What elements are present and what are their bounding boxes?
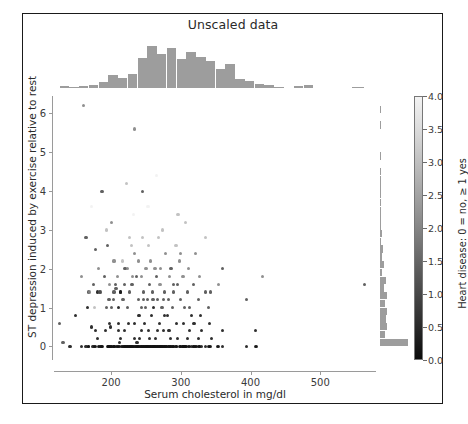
histogram-bar-x — [196, 57, 205, 88]
scatter-point — [162, 329, 165, 332]
histogram-bar-x — [235, 79, 244, 88]
scatter-point — [112, 259, 115, 262]
scatter-point — [176, 213, 179, 216]
scatter-point — [110, 221, 113, 224]
scatter-point — [154, 337, 157, 340]
scatter-point — [254, 329, 257, 332]
scatter-point — [171, 306, 174, 309]
scatter-point — [135, 341, 138, 344]
scatter-point — [208, 322, 211, 325]
scatter-point — [147, 329, 150, 332]
x-tick-label: 200 — [102, 377, 121, 388]
colorbar-tick-mark — [423, 360, 427, 361]
y-tick-mark — [49, 113, 53, 114]
y-tick-label: 0 — [36, 341, 46, 352]
histogram-bar-x — [245, 81, 254, 88]
scatter-point — [188, 329, 191, 332]
scatter-point — [207, 306, 210, 309]
histogram-bar-y — [380, 207, 381, 214]
scatter-point — [363, 283, 366, 286]
scatter-point — [200, 345, 203, 348]
scatter-point — [217, 345, 220, 348]
scatter-point — [148, 337, 151, 340]
scatter-point — [221, 329, 224, 332]
y-tick-mark — [49, 191, 53, 192]
histogram-bar-y — [380, 300, 385, 307]
colorbar-tick-label: 0.0 — [428, 355, 443, 366]
scatter-point — [140, 329, 143, 332]
scatter-point — [84, 236, 87, 239]
scatter-point — [140, 275, 143, 278]
scatter-point — [141, 236, 144, 239]
scatter-point — [147, 244, 150, 247]
colorbar-tick-label: 3.0 — [428, 157, 443, 168]
scatter-point — [146, 298, 149, 301]
scatter-point — [74, 314, 77, 317]
scatter-point — [108, 283, 111, 286]
scatter-axes — [54, 96, 376, 360]
histogram-bar-y — [380, 222, 381, 229]
scatter-point — [204, 290, 207, 293]
scatter-point — [164, 252, 167, 255]
histogram-bar-y — [380, 230, 382, 237]
scatter-point — [86, 306, 89, 309]
scatter-point — [137, 314, 140, 317]
scatter-point — [192, 322, 195, 325]
scatter-point — [158, 283, 161, 286]
histogram-bar-y — [380, 183, 381, 190]
scatter-point — [174, 244, 177, 247]
histogram-bar-y — [380, 245, 383, 252]
histogram-bar-y — [380, 214, 381, 221]
scatter-point — [183, 306, 186, 309]
x-tick-label: 500 — [311, 377, 330, 388]
scatter-point — [109, 325, 112, 328]
histogram-bar-x — [216, 69, 225, 88]
scatter-point — [221, 267, 224, 270]
y-tick-mark — [49, 346, 53, 347]
y-tick-mark — [49, 230, 53, 231]
scatter-point — [94, 329, 97, 332]
scatter-point — [105, 228, 108, 231]
x-tick-label: 300 — [171, 377, 190, 388]
scatter-point — [194, 252, 197, 255]
scatter-point — [100, 345, 103, 348]
scatter-point — [187, 267, 190, 270]
scatter-point — [121, 259, 124, 262]
scatter-point — [166, 314, 169, 317]
chart-title: Unscaled data — [0, 17, 466, 32]
histogram-bar-x — [118, 78, 127, 88]
marginal-histogram-y — [380, 96, 410, 360]
scatter-point — [197, 298, 200, 301]
scatter-point — [135, 275, 138, 278]
scatter-point — [117, 322, 120, 325]
histogram-bar-y — [380, 339, 408, 346]
scatter-point — [118, 341, 121, 344]
scatter-point — [204, 236, 207, 239]
scatter-point — [186, 337, 189, 340]
scatter-point — [123, 283, 126, 286]
scatter-point — [142, 290, 145, 293]
x-tick-mark — [320, 371, 321, 375]
scatter-point — [90, 205, 93, 208]
scatter-point — [80, 275, 83, 278]
scatter-point — [128, 290, 131, 293]
scatter-point — [146, 205, 149, 208]
scatter-point — [99, 290, 102, 293]
scatter-point — [167, 298, 170, 301]
colorbar-tick-label: 0.5 — [428, 322, 443, 333]
scatter-point — [87, 345, 90, 348]
colorbar-tick-label: 2.0 — [428, 223, 443, 234]
colorbar-tick-mark — [423, 261, 427, 262]
histogram-bar-y — [380, 199, 381, 206]
scatter-point — [125, 182, 128, 185]
scatter-point — [133, 127, 136, 130]
scatter-point — [175, 322, 178, 325]
scatter-point — [121, 298, 124, 301]
scatter-point — [94, 248, 97, 251]
scatter-point — [93, 345, 96, 348]
scatter-point — [151, 298, 154, 301]
histogram-bar-x — [186, 52, 195, 88]
histogram-bar-x — [167, 48, 176, 88]
scatter-point — [117, 329, 120, 332]
